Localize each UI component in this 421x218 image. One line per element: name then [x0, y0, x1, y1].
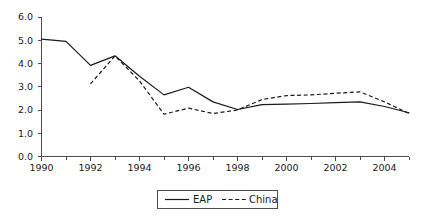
chart-canvas: 0.01.02.03.04.05.06.0 199019921994199619… [0, 0, 421, 218]
x-tick-label: 2000 [274, 162, 298, 173]
legend-label-china: China [249, 194, 278, 205]
x-tick-label: 1996 [176, 162, 200, 173]
x-tick-label: 1990 [29, 162, 53, 173]
x-tick-label: 1998 [225, 162, 249, 173]
y-axis-tick-marks [38, 17, 42, 157]
y-tick-label: 2.0 [18, 104, 33, 115]
series-line-china [91, 56, 410, 114]
y-axis-tick-labels: 0.01.02.03.04.05.06.0 [18, 11, 33, 162]
y-tick-label: 3.0 [18, 81, 33, 92]
x-axis-tick-marks [42, 157, 410, 161]
legend: EAP China [158, 191, 278, 209]
line-chart: 0.01.02.03.04.05.06.0 199019921994199619… [0, 0, 421, 218]
x-tick-label: 2002 [323, 162, 347, 173]
y-tick-label: 6.0 [18, 11, 33, 22]
x-tick-label: 2004 [372, 162, 396, 173]
x-axis-tick-labels: 19901992199419961998200020022004 [29, 162, 396, 173]
x-tick-label: 1994 [127, 162, 151, 173]
series-line-eap [42, 39, 410, 113]
x-tick-label: 1992 [78, 162, 102, 173]
y-tick-label: 0.0 [18, 151, 33, 162]
legend-label-eap: EAP [193, 194, 212, 205]
y-tick-label: 4.0 [18, 58, 33, 69]
y-tick-label: 5.0 [18, 35, 33, 46]
y-tick-label: 1.0 [18, 128, 33, 139]
